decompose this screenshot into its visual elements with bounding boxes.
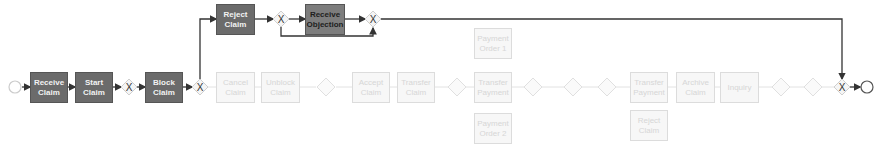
start-event [9,81,21,93]
faded-task-inquiry: Inquiry [720,72,759,103]
faded-gateway [564,78,582,96]
faded-task-unblock-claim: Unblock Claim [261,72,300,103]
svg-text:X: X [126,82,133,93]
faded-task-transfer-payment: Transfer Payment [474,72,512,103]
task-block-claim[interactable]: Block Claim [145,72,183,103]
svg-text:X: X [197,82,204,93]
faded-task-reject-claim-2: Reject Claim [630,110,668,141]
faded-task-transfer-claim: Transfer Claim [397,72,435,103]
process-diagram: X X X X X Receive Claim Start Claim Bloc… [0,0,888,155]
task-reject-claim[interactable]: Reject Claim [216,4,255,35]
task-receive-claim[interactable]: Receive Claim [30,72,68,103]
faded-gateway [524,78,542,96]
faded-gateway [804,78,822,96]
faded-task-payment-order-1: Payment Order 1 [474,28,512,59]
svg-text:X: X [839,82,846,93]
end-event [861,81,873,93]
svg-text:X: X [370,14,377,25]
task-receive-objection[interactable]: Receive Objection [305,4,345,35]
faded-task-transfer-payment-2: Transfer Payment [630,72,668,103]
faded-gateway [448,78,466,96]
faded-task-archive-claim: Archive Claim [676,72,715,103]
faded-gateway [772,78,790,96]
task-start-claim[interactable]: Start Claim [75,72,113,103]
faded-task-cancel-claim: Cancel Claim [216,72,255,103]
svg-text:X: X [278,14,285,25]
faded-gateway [598,78,616,96]
faded-task-payment-order-2: Payment Order 2 [474,113,512,144]
faded-gateway [317,78,335,96]
faded-task-accept-claim: Accept Claim [352,72,390,103]
